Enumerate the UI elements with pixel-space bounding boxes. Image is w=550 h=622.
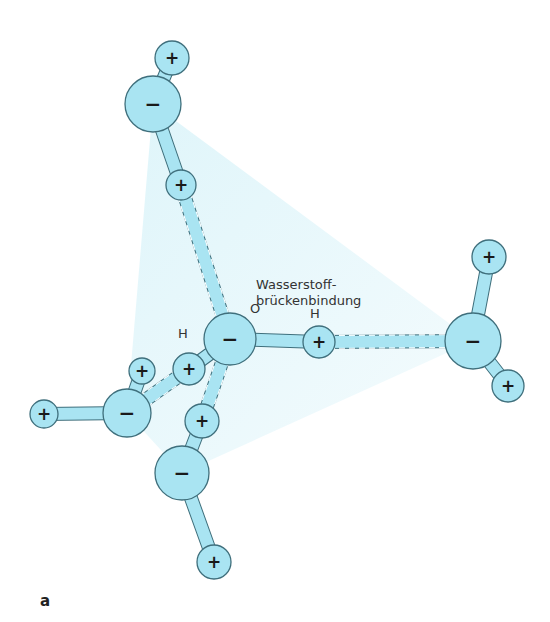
plus-sign-icon: + [207,552,221,572]
hydrogen-atom: + [303,326,335,358]
hydrogen-atom: + [185,404,219,438]
plus-sign-icon: + [37,404,51,424]
plus-sign-icon: + [135,361,149,381]
hydrogen-right-label: H [310,306,320,321]
hydrogen-atom: + [173,353,205,385]
oxygen-atom: − [103,389,151,437]
plus-sign-icon: + [174,175,188,195]
water-hydrogen-bond-diagram: −++−++−++−+++−+ Wasserstoff- brückenbind… [0,0,550,622]
oxygen-label: O [250,301,260,316]
oxygen-atom: − [155,446,209,500]
plus-sign-icon: + [182,359,196,379]
minus-sign-icon: − [119,401,136,425]
oxygen-atom: − [445,313,501,369]
minus-sign-icon: − [222,327,239,351]
plus-sign-icon: + [195,411,209,431]
plus-sign-icon: + [482,247,496,267]
hydrogen-atom: + [166,170,196,200]
minus-sign-icon: − [145,92,162,116]
minus-sign-icon: − [465,329,482,353]
hydrogen-atom: + [492,370,524,402]
hydrogen-atom: + [472,240,506,274]
hydrogen-atom: + [30,400,58,428]
hydrogen-left-label: H [178,326,188,341]
plus-sign-icon: + [501,376,515,396]
plus-sign-icon: + [312,332,326,352]
hydrogen-atom: + [129,358,155,384]
hydrogen-atom: + [155,41,189,75]
oxygen-atom: − [125,76,181,132]
oxygen-atom: − [204,313,256,365]
hydrogen-atom: + [197,545,231,579]
annotation-line2: brückenbindung [256,293,361,308]
annotation-line1: Wasserstoff- [256,277,337,292]
figure-label: a [40,592,50,610]
minus-sign-icon: − [174,461,191,485]
plus-sign-icon: + [165,48,179,68]
